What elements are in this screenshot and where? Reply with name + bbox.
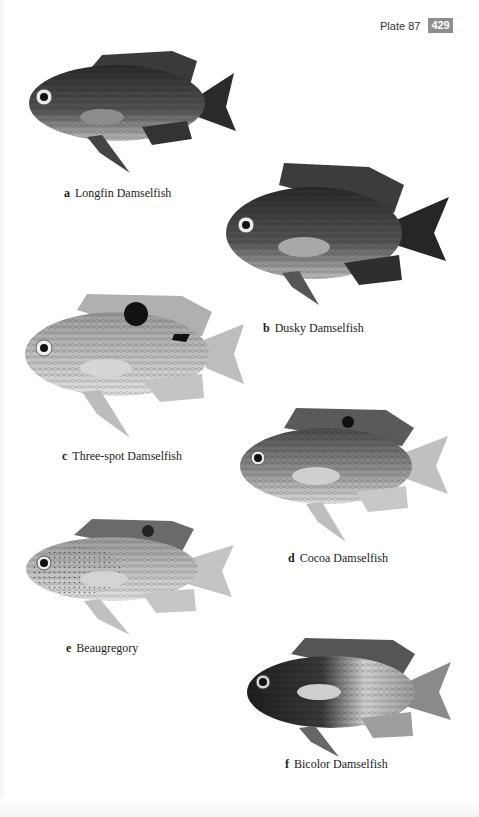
species-name: Three-spot Damselfish [72,449,182,463]
species-letter: a [64,186,70,200]
species-name: Cocoa Damselfish [300,551,388,565]
plate-label: Plate 87 [380,20,420,32]
page-edge-shadow-bottom [0,799,479,817]
species-caption-b: bDusky Damselfish [263,321,364,336]
species-name: Longfin Damselfish [75,186,171,200]
species-name: Beaugregory [76,641,138,655]
species-name: Bicolor Damselfish [294,757,388,771]
page-header: Plate 87 429 [380,18,453,33]
species-caption-d: dCocoa Damselfish [288,551,388,566]
species-caption-f: fBicolor Damselfish [285,757,388,772]
species-caption-c: cThree-spot Damselfish [62,449,182,464]
page-number-badge: 429 [428,18,452,33]
species-letter: b [263,321,270,335]
fish-illustration-beaugregory [22,515,237,635]
fish-illustration-bicolor-damselfish [243,632,453,757]
fish-illustration-longfin-damselfish [22,45,238,180]
fish-illustration-dusky-damselfish [224,155,454,310]
species-letter: e [66,641,71,655]
species-letter: c [62,449,67,463]
species-letter: d [288,551,295,565]
fish-illustration-three-spot-damselfish [22,288,247,443]
species-caption-e: eBeaugregory [66,641,138,656]
fish-illustration-cocoa-damselfish [236,400,451,545]
species-letter: f [285,757,289,771]
species-name: Dusky Damselfish [275,321,364,335]
page-edge-shadow-left [0,0,6,817]
species-caption-a: aLongfin Damselfish [64,186,171,201]
